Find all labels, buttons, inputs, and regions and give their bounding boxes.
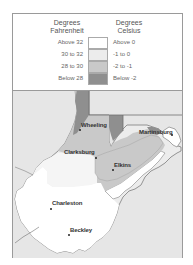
city-dot-beckley [68,234,70,236]
city-label-beckley: Beckley [70,227,92,233]
legend-fahrenheit-label: 28 to 30 [61,63,83,69]
legend-celsius-label: Below -2 [113,75,136,81]
legend-row: Below 28 Below -2 [13,73,182,85]
city-label-wheeling: Wheeling [81,122,107,128]
city-label-martinsburg: Martinsburg [139,129,173,135]
legend-fahrenheit-label: Below 28 [58,75,83,81]
city-label-clarksburg: Clarksburg [64,149,95,155]
legend-fahrenheit-label: 30 to 32 [61,51,83,57]
legend-row: 28 to 30 -2 to -1 [13,61,182,73]
legend-celsius-label: Above 0 [113,39,135,45]
legend-swatch-30-to-32 [88,49,108,61]
map-graphic [13,91,182,258]
legend-row: 30 to 32 -1 to 0 [13,49,182,61]
legend-celsius-label: -1 to 0 [113,51,130,57]
legend-swatch-above-32 [88,37,108,49]
legend-celsius-label: -2 to -1 [113,63,132,69]
west-virginia-map: Wheeling Martinsburg Clarksburg Elkins C… [13,90,182,258]
map-figure: Degrees Fahrenheit Degrees Celsius Above… [12,13,183,258]
legend-fahrenheit-label: Above 32 [58,39,83,45]
legend: Degrees Fahrenheit Degrees Celsius Above… [13,14,182,90]
legend-swatch-28-to-30 [88,61,108,73]
legend-row: Above 32 Above 0 [13,37,182,49]
city-label-elkins: Elkins [114,162,131,168]
city-dot-clarksburg [95,157,97,159]
city-dot-wheeling [79,129,81,131]
legend-celsius-header: Degrees Celsius [109,19,149,35]
city-dot-elkins [112,169,114,171]
legend-swatch-below-28 [88,73,108,85]
city-dot-charleston [50,208,52,210]
legend-fahrenheit-header: Degrees Fahrenheit [47,19,87,35]
city-label-charleston: Charleston [52,200,82,206]
